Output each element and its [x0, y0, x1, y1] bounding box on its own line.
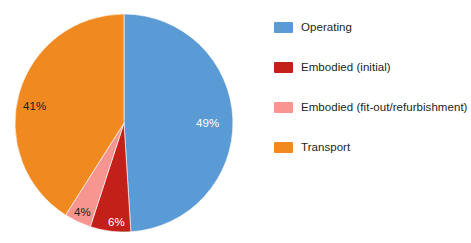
pie-chart-figure: 49% 6% 4% 41% Operating Embodied (initia… — [0, 0, 471, 243]
pie-slice-group — [15, 14, 233, 232]
pie-slice — [124, 14, 233, 232]
legend-swatch-embodied-fit-out — [274, 102, 293, 113]
chart-legend: Operating Embodied (initial) Embodied (f… — [274, 14, 464, 174]
legend-swatch-embodied-initial — [274, 62, 293, 73]
legend-label-embodied-initial: Embodied (initial) — [301, 59, 391, 75]
legend-swatch-operating — [274, 22, 293, 33]
legend-label-operating: Operating — [301, 19, 352, 35]
legend-label-embodied-fit-out: Embodied (fit-out/refurbishment) — [301, 99, 468, 115]
legend-item-transport: Transport — [274, 134, 464, 174]
pie-chart-svg — [0, 0, 250, 243]
legend-item-operating: Operating — [274, 14, 464, 54]
legend-item-embodied-initial: Embodied (initial) — [274, 54, 464, 94]
legend-label-transport: Transport — [301, 139, 350, 155]
pie-chart-plot-area: 49% 6% 4% 41% — [0, 0, 250, 243]
legend-item-embodied-fit-out: Embodied (fit-out/refurbishment) — [274, 94, 464, 134]
legend-swatch-transport — [274, 142, 293, 153]
